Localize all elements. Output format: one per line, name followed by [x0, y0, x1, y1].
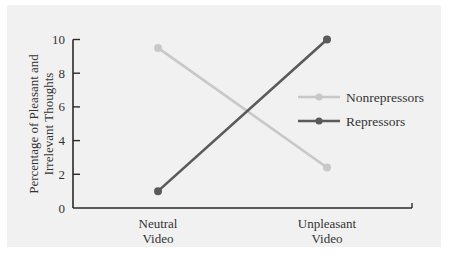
series-line-nonrepressors: [158, 48, 327, 168]
legend-swatch-marker: [315, 93, 322, 100]
series-line-repressors: [158, 40, 327, 192]
y-axis-label-line: Irrelevant Thoughts: [41, 73, 56, 176]
x-category-label: Unpleasant: [298, 216, 357, 231]
y-tick-label: 2: [59, 167, 66, 182]
data-point-nonrepressors: [323, 164, 331, 172]
y-tick-label: 4: [59, 133, 66, 148]
data-point-nonrepressors: [154, 44, 162, 52]
y-tick-label: 8: [59, 66, 66, 81]
legend-swatch-marker: [315, 117, 322, 124]
y-axis-label-line: Percentage of Pleasant and: [26, 54, 41, 194]
y-tick-label: 6: [59, 99, 66, 114]
data-point-repressors: [323, 36, 331, 44]
line-chart: 0246810Percentage of Pleasant andIrrelev…: [0, 0, 465, 265]
y-tick-label: 10: [52, 32, 65, 47]
legend-label-repressors: Repressors: [346, 114, 405, 129]
data-point-repressors: [154, 187, 162, 195]
x-category-label: Neutral: [139, 216, 178, 231]
y-axis-label: Percentage of Pleasant andIrrelevant Tho…: [26, 54, 56, 194]
legend-label-nonrepressors: Nonrepressors: [346, 90, 424, 105]
x-category-label: Video: [312, 231, 343, 246]
y-tick-label: 0: [59, 201, 66, 216]
x-category-label: Video: [143, 231, 174, 246]
